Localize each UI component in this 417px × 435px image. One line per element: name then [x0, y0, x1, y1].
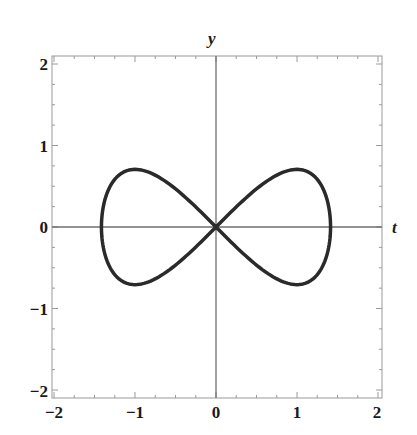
- y-tick-label: 0: [40, 218, 49, 237]
- y-tick-label: 2: [40, 55, 49, 74]
- x-tick-label: 0: [212, 403, 221, 422]
- x-tick-label: −2: [45, 403, 63, 422]
- x-tick-label: 1: [293, 403, 302, 422]
- x-tick-labels: −2 −1 0 1 2: [45, 403, 381, 422]
- y-axis-label: y: [206, 29, 216, 48]
- y-tick-label: 1: [40, 137, 49, 156]
- x-axis-label: t: [392, 218, 398, 237]
- y-tick-label: −2: [30, 382, 48, 401]
- x-tick-label: 2: [373, 403, 382, 422]
- parametric-plot: y t −2 −1 0 1 2 2 1 0 −1 −2: [0, 0, 417, 435]
- y-tick-label: −1: [30, 300, 48, 319]
- y-tick-labels: 2 1 0 −1 −2: [30, 55, 48, 401]
- x-tick-label: −1: [126, 403, 144, 422]
